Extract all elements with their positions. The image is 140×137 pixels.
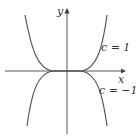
- curve-c-positive: [25, 15, 107, 71]
- curve-label-c-positive: c = 1: [101, 42, 130, 53]
- y-axis-label: y: [57, 6, 63, 17]
- diagram-canvas: [0, 0, 140, 137]
- curve-label-c-negative: c = −1: [99, 85, 138, 96]
